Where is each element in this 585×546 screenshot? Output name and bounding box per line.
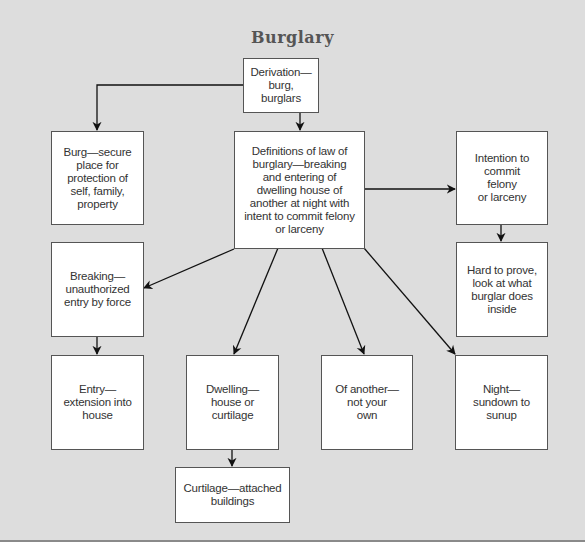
node-burg-label: Burg—secure place for protection of self… — [63, 146, 131, 211]
node-definitions: Definitions of law of burglary—breaking … — [234, 131, 365, 249]
arrow-definitions-to-dwelling — [234, 248, 278, 354]
node-dwelling-label: Dwelling— house or curtilage — [206, 383, 259, 422]
node-curtilage-label: Curtilage—attached buildings — [183, 482, 281, 508]
node-definitions-label: Definitions of law of burglary—breaking … — [244, 145, 354, 236]
node-night: Night— sundown to sunup — [455, 355, 548, 450]
node-dwelling: Dwelling— house or curtilage — [186, 355, 279, 450]
node-of-another-label: Of another— not your own — [335, 383, 399, 422]
node-entry: Entry— extension into house — [51, 355, 144, 450]
node-entry-label: Entry— extension into house — [63, 383, 131, 422]
node-intention: Intention to commit felony or larceny — [456, 131, 548, 225]
arrow-definitions-to-breaking — [144, 249, 234, 288]
arrow-definitions-to-night — [364, 248, 455, 354]
node-night-label: Night— sundown to sunup — [473, 383, 530, 422]
node-burg: Burg—secure place for protection of self… — [51, 131, 144, 225]
node-derivation-label: Derivation—burg, burglars — [250, 66, 312, 105]
node-derivation: Derivation—burg, burglars — [243, 58, 319, 113]
node-breaking: Breaking— unauthorized entry by force — [51, 242, 144, 337]
node-breaking-label: Breaking— unauthorized entry by force — [64, 270, 131, 309]
node-hard-to-prove: Hard to prove, look at what burglar does… — [456, 242, 548, 337]
node-of-another: Of another— not your own — [321, 355, 413, 450]
node-intention-label: Intention to commit felony or larceny — [475, 152, 530, 204]
arrow-definitions-to-of-another — [322, 248, 364, 354]
node-curtilage: Curtilage—attached buildings — [175, 467, 290, 523]
node-hard-to-prove-label: Hard to prove, look at what burglar does… — [467, 264, 537, 316]
arrow-derivation-to-burg — [97, 85, 243, 130]
